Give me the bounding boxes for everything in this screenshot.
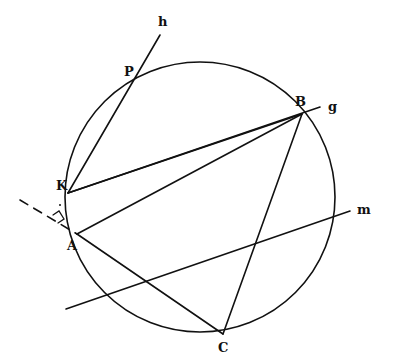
- line-h: [68, 35, 160, 193]
- segment-KB: [68, 114, 302, 193]
- point-label-P: P: [124, 64, 134, 79]
- geometry-diagram: P K A B C h g m: [0, 0, 394, 359]
- point-label-B: B: [295, 94, 306, 109]
- point-label-A: A: [66, 238, 78, 253]
- point-label-K: K: [56, 178, 68, 193]
- line-label-g: g: [328, 99, 337, 114]
- segment-BC: [223, 114, 302, 334]
- segment-AC: [77, 234, 223, 334]
- angle-dot: [59, 204, 61, 206]
- line-m: [66, 211, 350, 309]
- dashed-perpendicular-line: [20, 200, 77, 234]
- point-label-C: C: [218, 340, 228, 355]
- line-label-m: m: [357, 202, 371, 217]
- line-label-h: h: [158, 14, 168, 29]
- segment-AB: [77, 114, 302, 234]
